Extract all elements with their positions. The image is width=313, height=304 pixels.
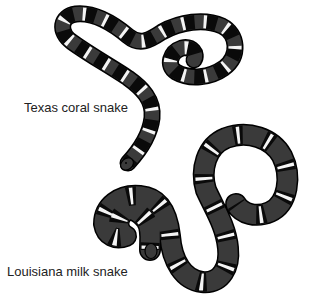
coral-snake-eye <box>125 162 127 164</box>
label-texas-coral-snake: Texas coral snake <box>24 101 128 114</box>
milk-snake-head <box>145 244 157 259</box>
label-louisiana-milk-snake: Louisiana milk snake <box>7 265 128 278</box>
snake-illustration <box>0 0 313 304</box>
